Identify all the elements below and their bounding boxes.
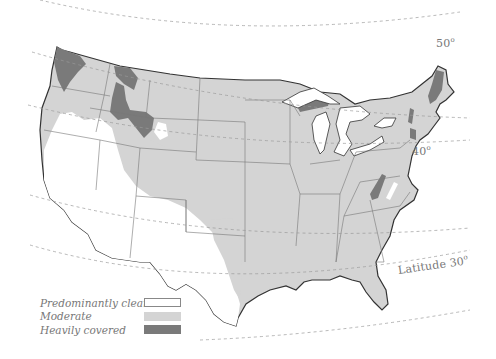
legend-item-clear: Predominantly clear — [40, 296, 181, 310]
legend-swatch-clear — [144, 298, 181, 307]
latitude-label-50: 50o — [436, 36, 455, 50]
region-heavy-pennsylvania — [410, 128, 416, 140]
legend-label: Predominantly clear — [40, 297, 144, 309]
legend-label: Moderate — [40, 310, 144, 322]
legend-label: Heavily covered — [40, 324, 144, 336]
legend-swatch-heavy — [144, 325, 181, 334]
legend: Predominantly clear Moderate Heavily cov… — [40, 296, 181, 337]
latitude-label-40: 40o — [412, 144, 431, 158]
legend-item-heavy: Heavily covered — [40, 323, 181, 337]
legend-item-moderate: Moderate — [40, 310, 181, 324]
legend-swatch-moderate — [144, 312, 181, 321]
